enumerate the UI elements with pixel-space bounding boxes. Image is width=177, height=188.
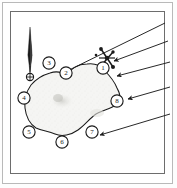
station-5[interactable]: 5	[23, 126, 35, 138]
station-3-label: 3	[47, 59, 51, 67]
map-canvas: 1 2 3 4 5 6 7	[0, 0, 177, 188]
station-3[interactable]: 3	[43, 57, 55, 69]
station-2[interactable]: 2	[60, 67, 72, 79]
station-8-label: 8	[115, 97, 119, 105]
figure-container: 1 2 3 4 5 6 7	[0, 0, 177, 188]
station-4-label: 4	[22, 94, 26, 102]
direction-arrow-3	[117, 62, 170, 76]
station-1-label: 1	[101, 64, 105, 72]
station-7-label: 7	[90, 128, 94, 136]
station-7[interactable]: 7	[86, 126, 98, 138]
direction-arrow-5	[100, 114, 170, 135]
direction-arrow-4	[128, 87, 170, 99]
north-arrow	[26, 27, 33, 81]
station-1[interactable]: 1	[97, 62, 109, 74]
station-8[interactable]: 8	[111, 95, 123, 107]
station-6-label: 6	[60, 138, 64, 146]
station-2-label: 2	[64, 69, 68, 77]
station-5-label: 5	[27, 128, 31, 136]
station-4[interactable]: 4	[18, 92, 30, 104]
station-6[interactable]: 6	[56, 136, 68, 148]
circled-cross-marker	[26, 73, 33, 80]
